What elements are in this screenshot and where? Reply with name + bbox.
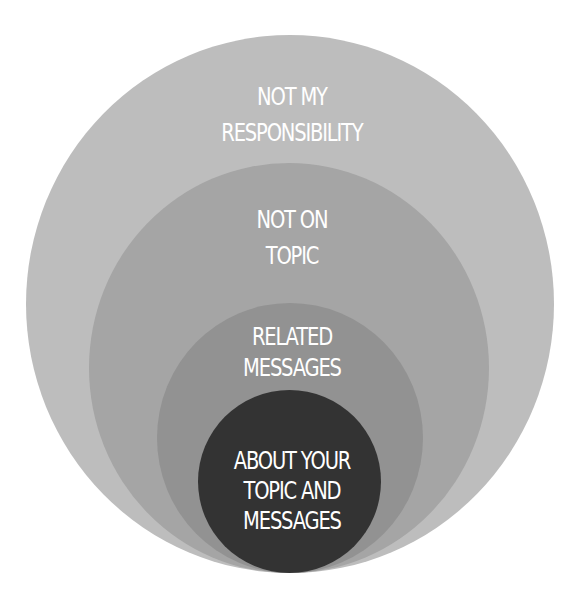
label-line: NOT MY bbox=[64, 79, 520, 115]
label-line: MESSAGES bbox=[64, 506, 520, 536]
label-line: ABOUT YOUR bbox=[64, 446, 520, 476]
label-line: TOPIC AND bbox=[64, 476, 520, 506]
label-not-my-responsibility: NOT MY RESPONSIBILITY bbox=[64, 79, 520, 151]
label-line: RESPONSIBILITY bbox=[64, 115, 520, 151]
label-line: TOPIC bbox=[64, 238, 520, 274]
label-related-messages: RELATED MESSAGES bbox=[64, 321, 520, 383]
label-line: MESSAGES bbox=[64, 352, 520, 383]
label-about-your-topic: ABOUT YOUR TOPIC AND MESSAGES bbox=[64, 446, 520, 536]
label-line: RELATED bbox=[64, 321, 520, 352]
label-not-on-topic: NOT ON TOPIC bbox=[64, 202, 520, 274]
nested-circles-diagram: NOT MY RESPONSIBILITY NOT ON TOPIC RELAT… bbox=[0, 0, 585, 594]
label-line: NOT ON bbox=[64, 202, 520, 238]
